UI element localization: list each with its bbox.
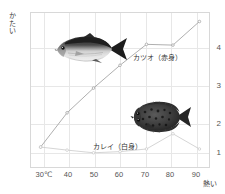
x-axis-title: 熱い — [203, 178, 217, 188]
y-axis-title-char-1: か — [6, 12, 18, 20]
x-axis-tick-50: 50 — [90, 170, 98, 179]
y-axis-title-char-3: い — [6, 27, 18, 35]
series-label-katsuo: カツオ（赤身） — [133, 52, 182, 62]
gridline-horizontal — [31, 153, 209, 154]
gridline-vertical — [146, 13, 147, 167]
y-axis-tick-4: 4 — [199, 43, 225, 52]
gridline-vertical — [197, 13, 198, 167]
x-axis-tick-30: 30℃ — [36, 170, 53, 179]
y-axis-tick-1: 1 — [199, 148, 225, 157]
gridline-horizontal — [31, 86, 209, 87]
x-axis-tick-60: 60 — [115, 170, 123, 179]
y-axis-tick-3: 3 — [199, 81, 225, 90]
gridline-vertical — [171, 13, 172, 167]
fish-firmness-chart: か た い 4 3 2 1 30℃ 40 50 60 70 80 90 熱い カ… — [0, 0, 225, 194]
bonito-illustration — [53, 31, 129, 67]
x-axis-tick-80: 80 — [166, 170, 174, 179]
y-axis-title: か た い — [6, 12, 18, 35]
gridline-vertical — [44, 13, 45, 167]
x-axis-tick-40: 40 — [64, 170, 72, 179]
y-axis-tick-2: 2 — [199, 119, 225, 128]
x-axis-tick-70: 70 — [141, 170, 149, 179]
y-axis-title-char-2: た — [6, 20, 18, 28]
x-axis-tick-90: 90 — [192, 170, 200, 179]
flounder-illustration — [128, 97, 194, 137]
series-label-karei: カレイ（白身） — [93, 141, 142, 151]
